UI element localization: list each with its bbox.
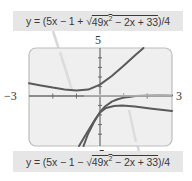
formula-radicand: 49x2 − 2x + 33 [92,15,158,28]
formula-radicand: 49x2 − 2x + 33 [92,155,158,168]
x-max-label: 3 [176,90,182,102]
formula-label-upper: y = (5x − 1 + √49x2 − 2x + 33)/4 [13,11,183,31]
x-min-label: −3 [4,90,17,102]
formula-prefix: y = (5x − 1 − √ [26,156,92,168]
y-max-label: 5 [95,34,101,46]
formula-suffix: )/4 [158,156,170,168]
formula-label-lower: y = (5x − 1 − √49x2 − 2x + 33)/4 [13,151,183,172]
formula-suffix: )/4 [158,15,170,27]
formula-prefix: y = (5x − 1 + √ [26,15,92,27]
